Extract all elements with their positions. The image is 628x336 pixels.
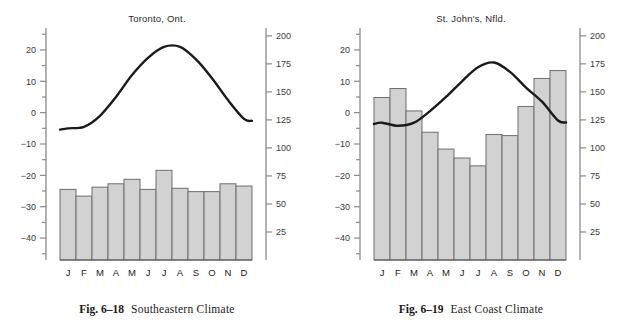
month-label: M <box>410 267 418 278</box>
precipitation-bar <box>438 149 454 260</box>
left-axis-tick-label: −30 <box>21 202 36 212</box>
right-axis-tick-label: 75 <box>276 171 286 181</box>
precipitation-bar <box>550 71 566 260</box>
month-label: S <box>507 267 513 278</box>
precipitation-bar <box>172 188 188 260</box>
precipitation-bar <box>60 189 76 260</box>
left-axis-tick-label: 20 <box>340 45 350 55</box>
right-axis-tick-label: 200 <box>276 31 291 41</box>
figure-pair-container: Toronto, Ont. 20100−10−20−30−40200175150… <box>0 0 628 336</box>
left-axis-tick-label: 20 <box>26 45 36 55</box>
right-axis: 200175150125100755025 <box>580 28 605 260</box>
month-label: D <box>241 267 248 278</box>
month-label: J <box>66 267 71 278</box>
month-label: N <box>225 267 232 278</box>
precipitation-bar <box>108 184 124 260</box>
precipitation-bar <box>76 196 92 260</box>
month-label: J <box>380 267 385 278</box>
left-axis-tick-label: −10 <box>21 139 36 149</box>
precipitation-bar <box>124 179 140 260</box>
left-axis-tick-label: 10 <box>26 77 36 87</box>
left-axis-tick-label: −20 <box>335 171 350 181</box>
figure-6-19: St. John's, Nfld. 20100−10−20−30−4020017… <box>314 0 628 336</box>
month-label: A <box>427 267 434 278</box>
right-axis-tick-label: 175 <box>276 59 291 69</box>
right-axis-tick-label: 175 <box>590 59 605 69</box>
left-axis: 20100−10−20−30−40 <box>335 28 360 260</box>
month-label: J <box>460 267 465 278</box>
left-axis-tick-label: −30 <box>335 202 350 212</box>
month-label: J <box>146 267 151 278</box>
right-axis-tick-label: 125 <box>590 115 605 125</box>
figure-number-label: Fig. 6–19 <box>399 303 444 315</box>
bar-series <box>60 170 252 260</box>
figure-caption-text: Southeastern Climate <box>131 303 235 315</box>
month-label: D <box>555 267 562 278</box>
month-label: O <box>522 267 529 278</box>
right-axis-tick-label: 25 <box>276 227 286 237</box>
precipitation-bar <box>156 170 172 260</box>
right-axis-tick-label: 50 <box>590 199 600 209</box>
month-label: J <box>476 267 481 278</box>
month-axis-labels: JFMAMJJASOND <box>66 267 248 278</box>
right-axis-tick-label: 100 <box>590 143 605 153</box>
month-label: A <box>177 267 184 278</box>
month-label: F <box>81 267 87 278</box>
precipitation-bar <box>220 184 236 260</box>
left-axis-tick-label: −20 <box>21 171 36 181</box>
month-label: A <box>491 267 498 278</box>
precipitation-bar <box>406 111 422 260</box>
precipitation-bar <box>188 192 204 260</box>
month-axis-labels: JFMAMJJASOND <box>380 267 562 278</box>
bar-series <box>374 71 566 260</box>
left-axis-tick-label: 0 <box>31 108 36 118</box>
month-label: N <box>539 267 546 278</box>
climate-chart-stjohns: 20100−10−20−30−40200175150125100755025JF… <box>314 20 628 298</box>
precipitation-bar <box>470 166 486 260</box>
right-axis-tick-label: 200 <box>590 31 605 41</box>
left-axis-tick-label: −10 <box>335 139 350 149</box>
temperature-curve <box>60 45 252 129</box>
precipitation-bar <box>140 189 156 260</box>
month-label: S <box>193 267 199 278</box>
month-label: M <box>128 267 136 278</box>
month-label: F <box>395 267 401 278</box>
right-axis-tick-label: 100 <box>276 143 291 153</box>
precipitation-bar <box>422 132 438 260</box>
precipitation-bar <box>486 134 502 260</box>
plot-area-stjohns: 20100−10−20−30−40200175150125100755025JF… <box>314 20 628 298</box>
left-axis-tick-label: −40 <box>335 233 350 243</box>
left-axis-tick-label: 10 <box>340 77 350 87</box>
right-axis-tick-label: 150 <box>276 87 291 97</box>
figure-caption-text: East Coast Climate <box>451 303 544 315</box>
caption-6-18: Fig. 6–18Southeastern Climate <box>0 303 314 315</box>
month-label: J <box>162 267 167 278</box>
right-axis-tick-label: 150 <box>590 87 605 97</box>
figure-number-label: Fig. 6–18 <box>79 303 124 315</box>
precipitation-bar <box>518 106 534 260</box>
caption-6-19: Fig. 6–19East Coast Climate <box>314 303 628 315</box>
left-axis: 20100−10−20−30−40 <box>21 28 46 260</box>
right-axis-tick-label: 50 <box>276 199 286 209</box>
month-label: M <box>96 267 104 278</box>
precipitation-bar <box>236 186 252 260</box>
plot-area-toronto: 20100−10−20−30−40200175150125100755025JF… <box>0 20 314 298</box>
month-label: A <box>113 267 120 278</box>
precipitation-bar <box>204 192 220 260</box>
right-axis-tick-label: 125 <box>276 115 291 125</box>
right-axis-tick-label: 25 <box>590 227 600 237</box>
right-axis-tick-label: 75 <box>590 171 600 181</box>
precipitation-bar <box>534 78 550 260</box>
right-axis: 200175150125100755025 <box>266 28 291 260</box>
month-label: O <box>208 267 215 278</box>
climate-chart-toronto: 20100−10−20−30−40200175150125100755025JF… <box>0 20 314 298</box>
precipitation-bar <box>390 89 406 260</box>
precipitation-bar <box>92 187 108 260</box>
precipitation-bar <box>502 136 518 260</box>
precipitation-bar <box>454 158 470 260</box>
figure-6-18: Toronto, Ont. 20100−10−20−30−40200175150… <box>0 0 314 336</box>
left-axis-tick-label: 0 <box>345 108 350 118</box>
month-label: M <box>442 267 450 278</box>
left-axis-tick-label: −40 <box>21 233 36 243</box>
